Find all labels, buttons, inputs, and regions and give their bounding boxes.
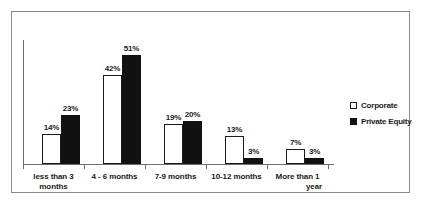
bar-private-equity-0 [61, 115, 80, 164]
category-label-4: More than 1year [267, 172, 328, 192]
axis-tick [328, 165, 329, 169]
axis-tick [84, 165, 85, 169]
category-label-line: less than 3 [33, 172, 73, 181]
legend-label: Private Equity [361, 117, 412, 126]
bar-value-label: 20% [173, 110, 213, 119]
bar-corporate-2 [164, 124, 183, 164]
category-label-line: 10-12 months [211, 172, 261, 181]
bar-value-label: 51% [112, 44, 152, 53]
category-label-line: year [267, 182, 328, 192]
category-label-line: More than 1 [276, 172, 320, 181]
bar-value-label: 3% [234, 147, 274, 156]
bar-value-label: 3% [295, 147, 335, 156]
category-label-2: 7-9 months [145, 172, 206, 182]
bar-value-label: 7% [276, 138, 316, 147]
bar-corporate-1 [103, 75, 122, 164]
bar-value-label: 13% [215, 125, 255, 134]
category-label-3: 10-12 months [206, 172, 267, 182]
bar-private-equity-3 [244, 158, 263, 164]
bar-private-equity-4 [305, 158, 324, 164]
legend-item-private-equity[interactable]: Private Equity [350, 114, 421, 128]
axis-tick [145, 165, 146, 169]
chart-figure: 14%23%42%51%19%20%13%3%7%3% less than 3m… [0, 0, 421, 206]
plot-area: 14%23%42%51%19%20%13%3%7%3% [23, 26, 333, 165]
bar-value-label: 23% [51, 104, 91, 113]
legend-item-corporate[interactable]: Corporate [350, 98, 421, 112]
bar-private-equity-1 [122, 55, 141, 164]
filled-square-marker [350, 118, 357, 125]
chart-legend: CorporatePrivate Equity [350, 98, 421, 130]
axis-tick [267, 165, 268, 169]
category-label-1: 4 - 6 months [84, 172, 145, 182]
legend-label: Corporate [361, 101, 397, 110]
chart-border-frame: 14%23%42%51%19%20%13%3%7%3% less than 3m… [11, 11, 410, 193]
bar-corporate-0 [42, 134, 61, 164]
axis-tick [206, 165, 207, 169]
bar-private-equity-2 [183, 121, 202, 164]
open-square-marker [350, 102, 357, 109]
axis-tick [23, 165, 24, 169]
category-label-line: 7-9 months [155, 172, 197, 181]
category-label-line: months [23, 182, 84, 192]
category-label-0: less than 3months [23, 172, 84, 192]
category-label-line: 4 - 6 months [92, 172, 138, 181]
